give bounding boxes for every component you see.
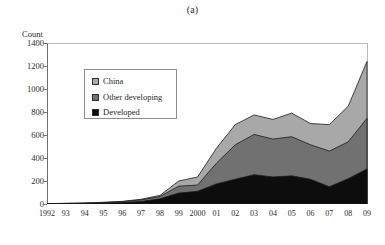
y-tick-label: 200 <box>4 176 44 186</box>
x-tick-label: 1992 <box>39 209 55 218</box>
y-tick-mark <box>43 204 47 205</box>
legend-swatch-icon <box>92 78 99 85</box>
x-tick-label: 98 <box>156 209 164 218</box>
x-tick-label: 04 <box>269 209 277 218</box>
legend-item[interactable]: Other developing <box>92 92 176 103</box>
x-tick-label: 01 <box>212 209 220 218</box>
y-tick-label: 800 <box>4 107 44 117</box>
panel-title: (a) <box>0 4 385 15</box>
stacked-area-series <box>47 43 368 204</box>
x-tick-label: 96 <box>118 209 126 218</box>
legend-item[interactable]: China <box>92 76 176 87</box>
legend-label: China <box>103 76 123 87</box>
x-tick-label: 06 <box>307 209 315 218</box>
x-tick-label: 99 <box>175 209 183 218</box>
y-tick-label: 1400 <box>4 38 44 48</box>
legend-label: Other developing <box>103 92 162 103</box>
x-tick-label: 07 <box>325 209 333 218</box>
y-tick-label: 600 <box>4 130 44 140</box>
legend-label: Developed <box>103 107 140 118</box>
x-tick-label: 08 <box>344 209 352 218</box>
chart-legend: ChinaOther developingDeveloped <box>84 69 177 119</box>
x-tick-label: 2000 <box>190 209 206 218</box>
x-tick-label: 02 <box>231 209 239 218</box>
x-tick-label: 94 <box>81 209 89 218</box>
x-tick-label: 03 <box>250 209 258 218</box>
x-tick-label: 95 <box>99 209 107 218</box>
y-axis-ticks: 0200400600800100012001400 <box>0 43 44 204</box>
legend-item[interactable]: Developed <box>92 107 176 118</box>
x-tick-label: 93 <box>62 209 70 218</box>
y-tick-label: 1000 <box>4 84 44 94</box>
plot-area <box>47 43 368 204</box>
y-tick-label: 1200 <box>4 61 44 71</box>
x-tick-label: 05 <box>288 209 296 218</box>
figure-container: (a) Count 0200400600800100012001400 1992… <box>0 0 385 245</box>
x-tick-label: 09 <box>363 209 371 218</box>
y-tick-label: 400 <box>4 153 44 163</box>
legend-swatch-icon <box>92 94 99 101</box>
x-axis-ticks: 1992939495969798992000010203040506070809 <box>47 206 368 226</box>
y-tick-label: 0 <box>4 199 44 209</box>
x-tick-label: 97 <box>137 209 145 218</box>
legend-swatch-icon <box>92 109 99 116</box>
